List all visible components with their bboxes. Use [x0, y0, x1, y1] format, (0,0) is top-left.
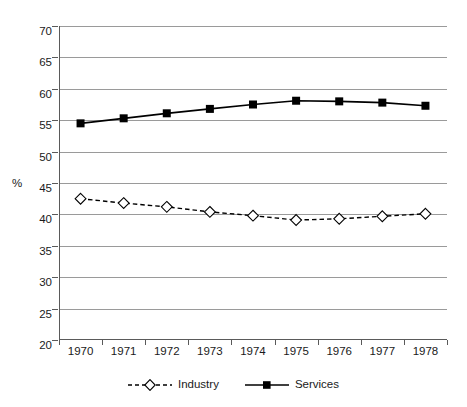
y-tick-label: 70: [12, 26, 52, 38]
y-tick-mark: [52, 26, 58, 27]
gridline-65: [60, 57, 447, 58]
x-tick-label: 1975: [275, 346, 318, 366]
gridline-25: [60, 309, 447, 310]
services-legend-marker-icon: [245, 379, 289, 391]
industry-legend-marker-icon: [128, 379, 172, 391]
x-tick-label: 1971: [102, 346, 145, 366]
x-tick-mark: [275, 340, 276, 345]
legend: Industry Services: [0, 379, 467, 391]
y-tick-label: 65: [12, 57, 52, 69]
gridline-55: [60, 120, 447, 121]
plot-area: [59, 26, 447, 340]
y-tick-mark: [52, 183, 58, 184]
y-tick-mark: [52, 89, 58, 90]
legend-item-services[interactable]: Services: [245, 379, 339, 391]
gridline-35: [60, 246, 447, 247]
y-tick-label: 20: [12, 340, 52, 352]
x-tick-label: 1977: [361, 346, 404, 366]
x-tick-mark: [102, 340, 103, 345]
x-tick-label: 1973: [188, 346, 231, 366]
x-tick-label: 1972: [145, 346, 188, 366]
x-tick-mark: [404, 340, 405, 345]
x-tick-label: 1976: [318, 346, 361, 366]
y-tick-label: 55: [12, 120, 52, 132]
legend-item-industry[interactable]: Industry: [128, 379, 219, 391]
y-tick-label: 30: [12, 277, 52, 289]
x-tick-mark: [318, 340, 319, 345]
gridline-30: [60, 277, 447, 278]
x-tick-mark: [59, 340, 60, 345]
x-tick-label: 1978: [404, 346, 447, 366]
y-tick-mark: [52, 214, 58, 215]
x-tick-label: 1974: [231, 346, 274, 366]
y-tick-label: 40: [12, 214, 52, 226]
line-chart: 70 65 60 55 50 45 40 35 30 25 20 %: [0, 0, 467, 407]
y-tick-mark: [52, 340, 58, 341]
y-tick-mark: [52, 277, 58, 278]
x-axis: 1970 1971 1972 1973 1974 1975 1976 1977 …: [59, 346, 447, 366]
y-tick-label: 25: [12, 309, 52, 321]
x-tick-mark: [231, 340, 232, 345]
gridline-45: [60, 183, 447, 184]
gridline-50: [60, 152, 447, 153]
x-tick-mark: [447, 340, 448, 345]
y-tick-mark: [52, 309, 58, 310]
y-tick-mark: [52, 246, 58, 247]
y-tick-mark: [52, 57, 58, 58]
y-tick-mark: [52, 152, 58, 153]
gridline-70: [60, 26, 447, 27]
gridline-40: [60, 214, 447, 215]
legend-label: Industry: [178, 379, 219, 391]
y-tick-label: 35: [12, 246, 52, 258]
legend-label: Services: [295, 379, 339, 391]
x-tick-mark: [145, 340, 146, 345]
y-tick-label: 60: [12, 89, 52, 101]
x-tick-mark: [188, 340, 189, 345]
y-axis-unit-label: %: [12, 178, 22, 190]
y-axis: 70 65 60 55 50 45 40 35 30 25 20: [0, 26, 52, 340]
y-tick-mark: [52, 120, 58, 121]
x-tick-mark: [361, 340, 362, 345]
x-tick-label: 1970: [59, 346, 102, 366]
y-tick-label: 50: [12, 152, 52, 164]
gridline-60: [60, 89, 447, 90]
